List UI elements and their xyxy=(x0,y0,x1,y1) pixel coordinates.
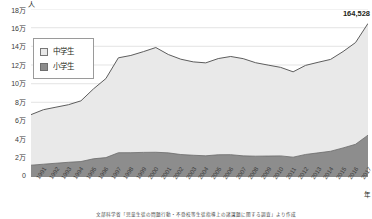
legend-item-elementary-school: 小学生 xyxy=(40,59,93,74)
legend-swatch-middle-school-icon xyxy=(40,48,48,56)
plot-area xyxy=(31,9,368,177)
y-axis-tick-16man: 16万 xyxy=(0,25,26,32)
x-axis-unit-label: 年 xyxy=(364,191,371,198)
legend: 中学生 小学生 xyxy=(33,38,94,79)
y-axis-tick-18man: 18万 xyxy=(0,7,26,14)
y-axis-tick-0: 0 xyxy=(0,172,26,179)
y-axis-tick-14man: 14万 xyxy=(0,43,26,50)
area-chart-svg xyxy=(31,9,368,177)
y-axis-tick-12man: 12万 xyxy=(0,62,26,69)
x-axis: 1991199219931994199519961997199819992000… xyxy=(31,177,368,211)
y-axis-tick-8man: 8万 xyxy=(0,99,26,106)
source-note: 文部科学省「児童生徒の問題行動・不登校等生徒指導上の諸課題に関する調査」より作成 xyxy=(96,212,296,217)
y-axis-tick-2man: 2万 xyxy=(0,154,26,161)
legend-item-middle-school: 中学生 xyxy=(40,44,93,59)
legend-swatch-elementary-school-icon xyxy=(40,63,48,71)
chart-container: 人 18万 16万 14万 12万 10万 8万 6万 4万 2万 0 中学生 … xyxy=(0,0,372,219)
legend-label-middle-school: 中学生 xyxy=(53,48,74,56)
y-axis-tick-10man: 10万 xyxy=(0,80,26,87)
y-axis-tick-6man: 6万 xyxy=(0,117,26,124)
y-axis-unit-label: 人 xyxy=(28,1,35,9)
y-axis-tick-4man: 4万 xyxy=(0,136,26,143)
value-callout: 164,528 xyxy=(343,10,370,18)
legend-label-elementary-school: 小学生 xyxy=(53,63,74,71)
